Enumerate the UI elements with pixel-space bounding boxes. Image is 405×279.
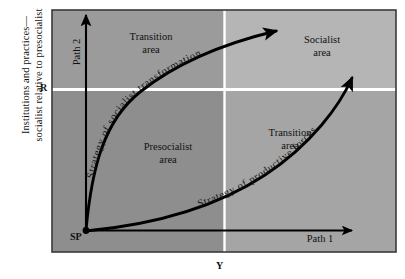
figure-container: Strategy of socialist transformation Str… [0,0,405,279]
quadrant-label-line2: area [281,140,299,151]
diagram-canvas: Strategy of socialist transformation Str… [0,0,405,279]
quadrant-lower-right [224,89,396,252]
path-2-label: Path 2 [71,39,82,66]
y-tick-label-r: R [40,82,47,93]
quadrant-lower-left [52,89,224,252]
quadrant-label-line1: Transition [269,127,313,138]
quadrant-label-line1: Socialist [304,34,340,45]
x-axis-label-y: Y [216,260,223,271]
quadrant-label-line2: area [159,154,177,165]
origin-label-sp: SP [70,231,82,242]
quadrant-label-line2: area [142,44,160,55]
quadrant-label-line1: Transition [130,31,174,42]
path-1-label: Path 1 [307,233,334,244]
quadrant-label-line2: area [313,47,331,58]
quadrant-upper-right [224,10,396,89]
quadrant-label-line1: Presocialist [144,141,192,152]
origin-point-sp [83,227,90,234]
y-axis-caption-line1: Institutions and practices— [19,0,32,180]
